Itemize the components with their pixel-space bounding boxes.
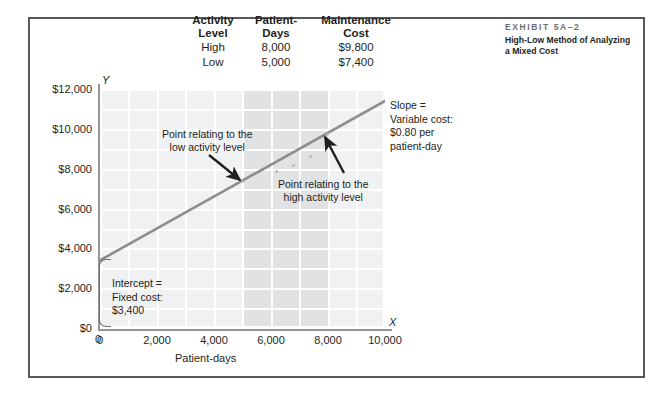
x-tick-label: 4,000	[184, 334, 244, 346]
intercept-brace	[99, 259, 111, 327]
annotation-low-activity: Point relating to the low activity level	[162, 128, 252, 154]
annotation-high-line1: Point relating to the	[278, 178, 368, 191]
annotation-intercept-line2: Fixed cost:	[112, 291, 163, 305]
data-point	[292, 164, 295, 167]
annotation-high-activity: Point relating to the high activity leve…	[278, 178, 368, 204]
x-axis-marker: X	[389, 316, 396, 328]
y-tick-label: $12,000	[30, 83, 92, 95]
annotation-intercept: Intercept = Fixed cost: $3,400	[112, 277, 163, 318]
y-tick-label: $0	[30, 322, 92, 334]
annotation-high-line2: high activity level	[278, 191, 368, 204]
exhibit-page: Activity Level Patient- Days Maintenance…	[0, 0, 670, 395]
y-tick-label: $8,000	[30, 163, 92, 175]
data-point	[275, 170, 278, 173]
annotation-intercept-line3: $3,400	[112, 304, 163, 318]
annotation-slope-line2: Variable cost:	[390, 113, 453, 127]
x-tick-label: 8,000	[298, 334, 358, 346]
annotation-low-line2: low activity level	[162, 141, 252, 154]
x-axis-line	[98, 329, 392, 331]
data-point	[326, 133, 329, 136]
x-tick-label: 10,000	[355, 334, 415, 346]
annotation-slope: Slope = Variable cost: $0.80 per patient…	[390, 99, 453, 153]
annotation-slope-line1: Slope =	[390, 99, 453, 113]
y-tick-label: $2,000	[30, 282, 92, 294]
origin-label: 0	[95, 333, 101, 345]
y-tick-label: $6,000	[30, 203, 92, 215]
x-tick-label: 2,000	[127, 334, 187, 346]
x-axis-title: Patient-days	[175, 352, 236, 364]
high-low-scatter-chart: $12,000 $10,000 $8,000 $6,000 $4,000 $2,…	[0, 0, 670, 395]
y-tick-label: $4,000	[30, 242, 92, 254]
x-tick-label: 6,000	[241, 334, 301, 346]
annotation-slope-line4: patient-day	[390, 140, 453, 154]
annotation-low-line1: Point relating to the	[162, 128, 252, 141]
y-tick-label: $10,000	[30, 123, 92, 135]
annotation-slope-line3: $0.80 per	[390, 126, 453, 140]
y-axis-marker: Y	[102, 74, 109, 86]
annotation-intercept-line1: Intercept =	[112, 277, 163, 291]
data-point	[309, 155, 312, 158]
data-point	[241, 180, 244, 183]
